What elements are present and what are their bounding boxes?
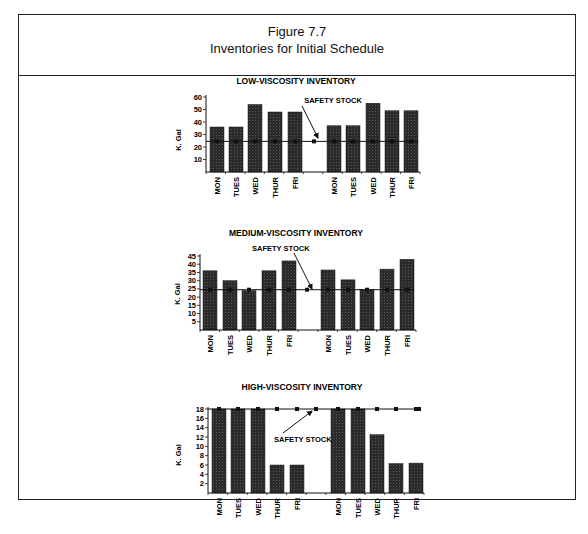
safety-stock-label: SAFETY STOCK [304,96,362,105]
safety-stock-arrow [302,106,318,138]
x-tick-label: TUES [234,498,243,518]
x-tick-label: THUR [392,497,401,518]
x-tick-label: MON [206,335,215,353]
bar-fri [400,259,414,330]
y-tick-label: 20 [188,293,196,302]
bar-wed [242,291,256,330]
y-tick-label: 2 [200,479,204,488]
bar-mon [210,127,224,172]
y-tick-label: 12 [196,433,204,442]
y-tick-label: 6 [200,461,204,470]
x-tick-label: WED [369,176,378,194]
bar-tues [346,126,360,172]
safety-stock-marker [314,407,318,411]
x-tick-label: MON [334,498,343,516]
x-tick-label: THUR [273,497,282,518]
bar-fri [290,465,304,493]
bar-tues [231,409,245,493]
x-tick-label: TUES [344,335,353,355]
y-tick-label: 20 [194,143,202,152]
safety-stock-marker [312,139,316,143]
y-tick-label: 60 [194,93,202,102]
charts-canvas: LOW-VISCOSITY INVENTORY MONTUESWEDTHURFR… [0,0,588,534]
medium-viscosity-chart: MEDIUM-VISCOSITY INVENTORY MONTUESWEDTHU… [173,228,416,356]
bar-wed [366,103,380,172]
bar-mon [212,409,226,493]
safety-stock-arrow [294,253,312,289]
x-tick-label: FRI [407,177,416,189]
y-tick-label: 10 [196,442,204,451]
y-tick-label: 40 [194,118,202,127]
high-viscosity-chart: HIGH-VISCOSITY INVENTORY MONTUESWEDTHURF… [174,382,424,519]
x-tick-label: FRI [403,335,412,347]
bar-thur [380,269,394,330]
chart-title: MEDIUM-VISCOSITY INVENTORY [229,228,363,238]
bar-mon [321,270,335,330]
bar-mon [327,126,341,172]
chart-title: HIGH-VISCOSITY INVENTORY [242,382,363,392]
x-tick-label: WED [373,497,382,515]
low-viscosity-chart: LOW-VISCOSITY INVENTORY MONTUESWEDTHURFR… [174,76,420,198]
bar-fri [282,261,296,330]
bar-wed [251,409,265,493]
y-axis-label: K. Gal [174,129,183,151]
x-tick-label: WED [254,497,263,515]
bar-thur [270,465,284,493]
x-tick-label: TUES [226,335,235,355]
safety-stock-arrow [283,411,312,433]
y-axis-label: K. Gal [174,444,183,466]
x-tick-label: FRI [412,498,421,510]
y-tick-label: 35 [188,268,196,277]
y-tick-label: 50 [194,105,202,114]
x-tick-label: TUES [354,498,363,518]
x-tick-label: MON [215,498,224,516]
y-tick-label: 4 [200,470,205,479]
x-tick-label: THUR [383,334,392,355]
y-tick-label: 45 [188,252,196,261]
bar-wed [248,105,262,173]
safety-stock-label: SAFETY STOCK [274,435,332,444]
x-tick-label: TUES [349,177,358,197]
bar-wed [360,290,374,330]
y-tick-label: 30 [194,130,202,139]
plot-area: MONTUESWEDTHURFRIMONTUESWEDTHURFRI102030… [194,93,420,198]
y-tick-label: 25 [188,284,196,293]
y-axis-label: K. Gal [173,283,182,305]
y-tick-label: 10 [194,155,202,164]
bar-thur [389,464,403,493]
bar-thur [262,271,276,330]
y-tick-label: 40 [188,260,196,269]
x-tick-label: THUR [388,176,397,197]
x-tick-label: TUES [232,177,241,197]
x-tick-label: MON [324,335,333,353]
y-tick-label: 10 [188,309,196,318]
y-tick-label: 15 [188,301,196,310]
x-tick-label: THUR [271,176,280,197]
y-tick-label: 18 [196,405,204,414]
safety-stock-marker [305,288,309,292]
y-tick-label: 16 [196,414,204,423]
bar-tues [341,280,355,330]
x-tick-label: MON [213,177,222,195]
bar-fri [409,463,423,493]
x-tick-label: FRI [293,498,302,510]
y-tick-label: 8 [200,451,204,460]
y-tick-label: 14 [196,423,205,432]
y-tick-label: 5 [192,317,196,326]
x-tick-label: FRI [285,335,294,347]
plot-area: MONTUESWEDTHURFRIMONTUESWEDTHURFRI246810… [196,405,424,519]
x-tick-label: FRI [291,177,300,189]
chart-title: LOW-VISCOSITY INVENTORY [236,76,355,86]
x-tick-label: THUR [265,334,274,355]
bar-tues [351,409,365,493]
bar-tues [229,127,243,172]
x-tick-label: WED [363,334,372,352]
x-tick-label: WED [245,334,254,352]
bar-mon [331,409,345,493]
safety-stock-label: SAFETY STOCK [252,244,310,253]
x-tick-label: MON [330,177,339,195]
bar-wed [370,435,384,493]
bar-mon [203,271,217,330]
plot-area: MONTUESWEDTHURFRIMONTUESWEDTHURFRI510152… [188,252,416,356]
y-tick-label: 30 [188,276,196,285]
